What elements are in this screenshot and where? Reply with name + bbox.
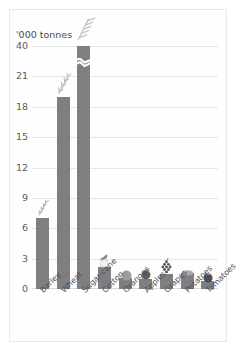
y-axis-tick-label: 12: [2, 163, 28, 173]
x-axis-category-labels: BarleyWheatSugar-caneCottonOrangesApples…: [32, 289, 218, 347]
y-axis-tick-label: 15: [2, 132, 28, 142]
plot-area: [32, 46, 218, 289]
y-axis-tick-label: 6: [2, 223, 28, 233]
gridline: [32, 46, 218, 47]
barley-ear-icon: [37, 200, 49, 216]
y-axis-unit-label: '000 tonnes: [16, 29, 72, 40]
y-axis-tick-label: 9: [2, 193, 28, 203]
bar-wheat[interactable]: [57, 97, 70, 289]
bar-sugar-cane[interactable]: [77, 46, 90, 289]
y-axis-tick-label: 18: [2, 102, 28, 112]
gridline: [32, 76, 218, 77]
y-axis-tick-label: 21: [2, 71, 28, 81]
chart-figure: '000 tonnes 03691215182140 BarleyWheatSu…: [0, 0, 236, 351]
y-axis-tick-label: 0: [2, 284, 28, 294]
y-axis-tick-labels: 03691215182140: [0, 46, 28, 289]
y-axis-tick-label: 3: [2, 254, 28, 264]
y-axis-tick-label: 40: [2, 41, 28, 51]
